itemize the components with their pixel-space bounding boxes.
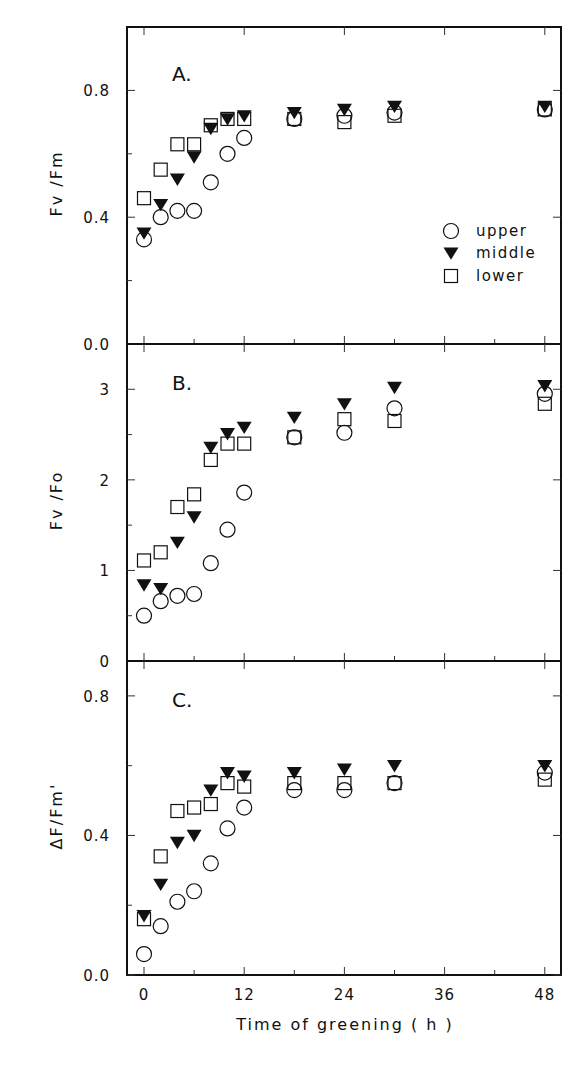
upper-marker-circle bbox=[203, 556, 218, 571]
lower-marker-square bbox=[388, 414, 401, 427]
y-tick-label: 0.4 bbox=[83, 209, 110, 227]
middle-marker-triangle bbox=[537, 760, 552, 772]
upper-marker-circle bbox=[137, 608, 152, 623]
panel-label: A. bbox=[172, 62, 192, 86]
upper-marker-circle bbox=[153, 594, 168, 609]
upper-marker-circle bbox=[237, 485, 252, 500]
y-tick-label: 0.4 bbox=[83, 827, 110, 845]
upper-marker-circle bbox=[220, 146, 235, 161]
lower-marker-square bbox=[171, 501, 184, 514]
x-tick-label: 36 bbox=[434, 986, 455, 1004]
y-tick-label: 0.8 bbox=[83, 82, 110, 100]
upper-marker-circle bbox=[170, 894, 185, 909]
x-tick-label: 12 bbox=[234, 986, 255, 1004]
upper-marker-circle bbox=[237, 800, 252, 815]
middle-marker-triangle bbox=[187, 151, 202, 163]
upper-marker-circle bbox=[187, 586, 202, 601]
y-axis-title: ΔF/Fm' bbox=[47, 783, 66, 850]
middle-marker-triangle bbox=[337, 764, 352, 776]
upper-marker-circle bbox=[137, 947, 152, 962]
lower-marker-square bbox=[338, 413, 351, 426]
series-lower bbox=[138, 773, 552, 926]
upper-marker-circle bbox=[387, 401, 402, 416]
upper-marker-circle bbox=[203, 175, 218, 190]
x-axis-title: Time of greening ( h ) bbox=[235, 1015, 454, 1034]
panel-b: 0123B.Fv /Fo bbox=[47, 344, 561, 671]
middle-marker-triangle bbox=[170, 837, 185, 849]
middle-marker-triangle bbox=[170, 174, 185, 186]
upper-marker-circle bbox=[153, 919, 168, 934]
lower-marker-square bbox=[154, 163, 167, 176]
series-upper bbox=[137, 765, 553, 961]
middle-marker-triangle bbox=[237, 771, 252, 783]
panel-frame bbox=[127, 27, 561, 344]
panel-c: 0.00.40.8C.ΔF/Fm' bbox=[47, 661, 561, 985]
legend: uppermiddlelower bbox=[444, 222, 537, 285]
y-tick-label: 0.0 bbox=[83, 336, 110, 354]
legend-item-lower: lower bbox=[445, 267, 525, 285]
lower-marker-square bbox=[238, 437, 251, 450]
upper-marker-circle bbox=[220, 522, 235, 537]
middle-marker-triangle bbox=[387, 382, 402, 394]
upper-marker-circle bbox=[203, 856, 218, 871]
middle-marker-triangle bbox=[220, 428, 235, 440]
lower-marker-square bbox=[288, 431, 301, 444]
middle-marker-triangle bbox=[153, 199, 168, 211]
middle-marker-triangle bbox=[287, 412, 302, 424]
legend-middle-marker-triangle bbox=[444, 247, 459, 259]
upper-marker-circle bbox=[153, 210, 168, 225]
middle-marker-triangle bbox=[187, 830, 202, 842]
lower-marker-square bbox=[138, 554, 151, 567]
lower-marker-square bbox=[388, 777, 401, 790]
middle-marker-triangle bbox=[337, 398, 352, 410]
middle-marker-triangle bbox=[137, 579, 152, 591]
series-middle bbox=[137, 760, 553, 922]
panel-label: C. bbox=[172, 688, 192, 712]
middle-marker-triangle bbox=[220, 113, 235, 125]
middle-marker-triangle bbox=[237, 110, 252, 122]
middle-marker-triangle bbox=[203, 784, 218, 796]
lower-marker-square bbox=[171, 805, 184, 818]
middle-marker-triangle bbox=[153, 879, 168, 891]
middle-marker-triangle bbox=[153, 583, 168, 595]
lower-marker-square bbox=[188, 138, 201, 151]
panels: 0.00.40.8A.Fv /Fm0123B.Fv /Fo0.00.40.8C.… bbox=[47, 27, 561, 1004]
legend-item-upper: upper bbox=[444, 222, 528, 240]
upper-marker-circle bbox=[387, 776, 402, 791]
upper-marker-circle bbox=[287, 430, 302, 445]
lower-marker-square bbox=[204, 798, 217, 811]
y-tick-label: 0 bbox=[99, 653, 110, 671]
legend-lower-marker-square bbox=[445, 270, 458, 283]
middle-marker-triangle bbox=[387, 760, 402, 772]
chlorophyll-fluorescence-figure: 0.00.40.8A.Fv /Fm0123B.Fv /Fo0.00.40.8C.… bbox=[0, 0, 588, 1067]
middle-marker-triangle bbox=[187, 511, 202, 523]
x-tick-labels: 012243648 bbox=[139, 986, 556, 1004]
upper-marker-circle bbox=[170, 588, 185, 603]
upper-marker-circle bbox=[187, 884, 202, 899]
middle-marker-triangle bbox=[170, 537, 185, 549]
upper-marker-circle bbox=[337, 425, 352, 440]
middle-marker-triangle bbox=[537, 380, 552, 392]
y-tick-label: 1 bbox=[99, 562, 110, 580]
legend-label: upper bbox=[476, 222, 527, 240]
x-tick-label: 48 bbox=[534, 986, 555, 1004]
y-tick-label: 2 bbox=[99, 472, 110, 490]
legend-upper-marker-circle bbox=[444, 224, 459, 239]
middle-marker-triangle bbox=[203, 442, 218, 454]
lower-marker-square bbox=[154, 546, 167, 559]
lower-marker-square bbox=[154, 850, 167, 863]
y-tick-label: 0.8 bbox=[83, 688, 110, 706]
upper-marker-circle bbox=[220, 821, 235, 836]
chart-canvas: 0.00.40.8A.Fv /Fm0123B.Fv /Fo0.00.40.8C.… bbox=[0, 0, 588, 1067]
middle-marker-triangle bbox=[287, 767, 302, 779]
y-axis-title: Fv /Fm bbox=[47, 151, 66, 217]
panel-label: B. bbox=[172, 371, 192, 395]
lower-marker-square bbox=[204, 453, 217, 466]
series-middle bbox=[137, 101, 553, 240]
x-tick-label: 0 bbox=[139, 986, 150, 1004]
upper-marker-circle bbox=[170, 203, 185, 218]
x-tick-label: 24 bbox=[334, 986, 355, 1004]
legend-item-middle: middle bbox=[444, 244, 537, 262]
lower-marker-square bbox=[188, 801, 201, 814]
lower-marker-square bbox=[188, 488, 201, 501]
